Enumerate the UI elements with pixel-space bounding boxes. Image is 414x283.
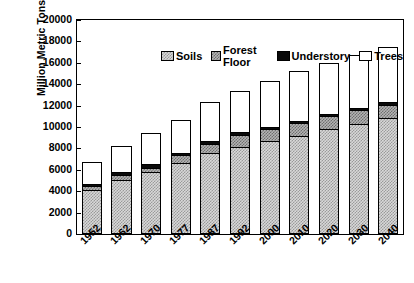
y-tick-label: 14000 — [43, 77, 72, 89]
stacked-bar[interactable] — [230, 91, 250, 234]
stacked-bar[interactable] — [349, 55, 369, 234]
bar-segment-trees[interactable] — [171, 120, 191, 154]
y-tick-label: 6000 — [49, 163, 72, 175]
stacked-bar[interactable] — [378, 47, 398, 234]
stacked-bar[interactable] — [200, 102, 220, 234]
bar-slot-1952 — [77, 20, 107, 234]
bar-segment-soils[interactable] — [378, 118, 398, 234]
bar-segment-forest-floor[interactable] — [230, 135, 250, 147]
bar-segment-soils[interactable] — [319, 129, 339, 234]
legend-swatch — [211, 51, 221, 61]
x-label-slot: 1962 — [106, 236, 136, 282]
x-label-slot: 1970 — [136, 236, 166, 282]
bar-segment-trees[interactable] — [319, 63, 339, 114]
stacked-bar[interactable] — [319, 63, 339, 234]
x-label-slot: 2030 — [344, 236, 374, 282]
bar-segment-trees[interactable] — [230, 91, 250, 133]
x-axis-labels: 1952196219701977198719922000201020202030… — [76, 236, 404, 282]
stacked-bar[interactable] — [111, 146, 131, 234]
bar-segment-trees[interactable] — [289, 71, 309, 120]
bar-segment-soils[interactable] — [289, 136, 309, 234]
plot-area: 0200040006000800010000120001400016000180… — [76, 19, 404, 235]
bar-segment-forest-floor[interactable] — [319, 116, 339, 129]
bar-segment-forest-floor[interactable] — [378, 105, 398, 119]
y-tick-label: 10000 — [43, 120, 72, 132]
y-tick-label: 2000 — [49, 206, 72, 218]
y-tick-label: 8000 — [49, 141, 72, 153]
legend-label: Understory — [292, 50, 351, 62]
bar-segment-soils[interactable] — [230, 147, 250, 234]
stacked-bar[interactable] — [289, 71, 309, 234]
legend-label: Trees — [374, 50, 403, 62]
legend-item-forest-floor[interactable]: Forest Floor — [211, 44, 267, 68]
bar-segment-trees[interactable] — [141, 133, 161, 164]
stacked-bar-chart: Million Metric Tons 02000400060008000100… — [0, 0, 414, 283]
legend-item-understory[interactable]: Understory — [277, 50, 351, 62]
x-label-slot: 2020 — [315, 236, 345, 282]
legend-item-soils[interactable]: Soils — [161, 50, 202, 62]
bar-segment-soils[interactable] — [349, 124, 369, 234]
x-label-slot: 1987 — [195, 236, 225, 282]
legend-label: Soils — [176, 50, 202, 62]
x-label-slot: 2010 — [285, 236, 315, 282]
bar-segment-trees[interactable] — [200, 102, 220, 141]
bar-segment-trees[interactable] — [260, 81, 280, 127]
y-tick-label: 4000 — [49, 184, 72, 196]
y-tick-label: 20000 — [43, 13, 72, 25]
bar-segment-forest-floor[interactable] — [200, 144, 220, 153]
y-tick-label: 16000 — [43, 56, 72, 68]
legend: SoilsForest FloorUnderstoryTrees — [161, 44, 403, 68]
y-tick-label: 12000 — [43, 99, 72, 111]
x-label-slot: 2000 — [255, 236, 285, 282]
bar-segment-trees[interactable] — [82, 162, 102, 183]
bar-slot-1962 — [107, 20, 137, 234]
bar-segment-forest-floor[interactable] — [349, 110, 369, 124]
x-label-slot: 1992 — [225, 236, 255, 282]
bar-segment-trees[interactable] — [111, 146, 131, 172]
bar-segment-forest-floor[interactable] — [260, 129, 280, 141]
bar-segment-soils[interactable] — [260, 141, 280, 234]
bar-segment-soils[interactable] — [200, 153, 220, 234]
legend-swatch — [161, 51, 174, 61]
legend-label: Forest Floor — [223, 44, 268, 68]
legend-item-trees[interactable]: Trees — [359, 50, 403, 62]
x-label-slot: 2040 — [374, 236, 404, 282]
x-label-slot: 1977 — [165, 236, 195, 282]
bar-segment-forest-floor[interactable] — [289, 123, 309, 136]
y-tick-label: 18000 — [43, 34, 72, 46]
stacked-bar[interactable] — [141, 133, 161, 234]
legend-swatch — [359, 51, 372, 61]
legend-swatch — [277, 51, 290, 61]
stacked-bar[interactable] — [171, 120, 191, 234]
bar-segment-forest-floor[interactable] — [171, 155, 191, 163]
x-label-slot: 1952 — [76, 236, 106, 282]
stacked-bar[interactable] — [260, 81, 280, 234]
y-tick-label: 0 — [66, 227, 72, 239]
